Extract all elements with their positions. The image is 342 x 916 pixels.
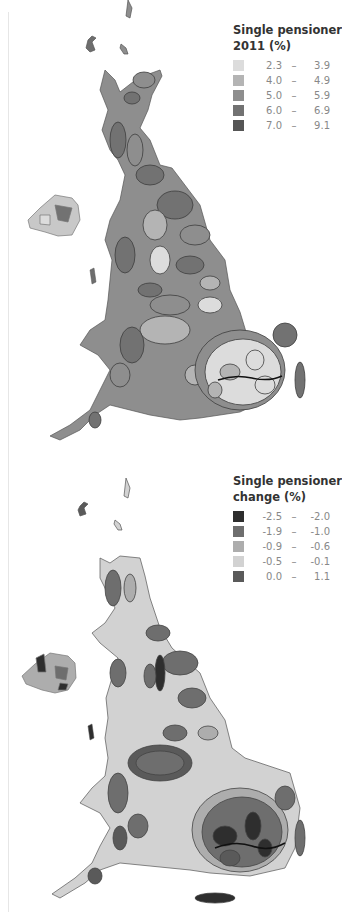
legend-row: 2.3–3.9 [233, 58, 342, 73]
range-low: 5.0 [256, 90, 282, 101]
legend-swatch [233, 120, 244, 131]
legend-title-line2: change (%) [233, 489, 342, 505]
range-high: 3.9 [306, 60, 330, 71]
range-high: -2.0 [306, 511, 330, 522]
legend-row: -2.5–-2.0 [233, 509, 342, 524]
legend-swatch [233, 571, 244, 582]
legend-swatch [233, 90, 244, 101]
range-low: -1.9 [256, 526, 282, 537]
legend-swatch [233, 511, 244, 522]
range-high: 4.9 [306, 75, 330, 86]
legend-change: Single pensioner change (%) -2.5–-2.0 -1… [233, 473, 342, 584]
legend-row: 5.0–5.9 [233, 88, 342, 103]
legend-row: -1.9–-1.0 [233, 524, 342, 539]
legend-swatch [233, 105, 244, 116]
legend-row: 0.0–1.1 [233, 569, 342, 584]
legend-swatch [233, 556, 244, 567]
legend-row: 4.0–4.9 [233, 73, 342, 88]
legend-row: 7.0–9.1 [233, 118, 342, 133]
legend-2011: Single pensioner 2011 (%) 2.3–3.9 4.0–4.… [233, 22, 342, 133]
legend-swatch [233, 526, 244, 537]
range-high: 1.1 [306, 571, 330, 582]
range-low: -0.9 [256, 541, 282, 552]
legend-row: 6.0–6.9 [233, 103, 342, 118]
range-high: -0.1 [306, 556, 330, 567]
legend-row: -0.5–-0.1 [233, 554, 342, 569]
range-low: -2.5 [256, 511, 282, 522]
legend-swatch [233, 60, 244, 71]
range-low: 2.3 [256, 60, 282, 71]
map-panel-change: Single pensioner change (%) -2.5–-2.0 -1… [0, 458, 329, 916]
range-high: 9.1 [306, 120, 330, 131]
legend-title-line1: Single pensioner [233, 22, 342, 38]
range-low: -0.5 [256, 556, 282, 567]
range-low: 7.0 [256, 120, 282, 131]
range-high: 6.9 [306, 105, 330, 116]
legend-row: -0.9–-0.6 [233, 539, 342, 554]
range-low: 4.0 [256, 75, 282, 86]
range-low: 0.0 [256, 571, 282, 582]
range-low: 6.0 [256, 105, 282, 116]
map-panel-2011: Single pensioner 2011 (%) 2.3–3.9 4.0–4.… [0, 0, 329, 458]
legend-title-line1: Single pensioner [233, 473, 342, 489]
range-high: -1.0 [306, 526, 330, 537]
legend-swatch [233, 75, 244, 86]
legend-title-line2: 2011 (%) [233, 38, 342, 54]
range-high: 5.9 [306, 90, 330, 101]
range-high: -0.6 [306, 541, 330, 552]
legend-swatch [233, 541, 244, 552]
